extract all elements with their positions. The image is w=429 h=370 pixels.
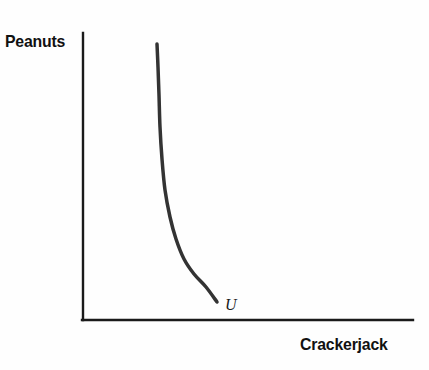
curve-u-label: U: [225, 297, 237, 313]
chart-canvas: [0, 0, 429, 370]
y-axis-label: Peanuts: [5, 33, 65, 50]
indifference-curve-figure: Peanuts Crackerjack U: [0, 0, 429, 370]
x-axis-label: Crackerjack: [300, 336, 388, 353]
indifference-curve-u: [157, 44, 217, 302]
